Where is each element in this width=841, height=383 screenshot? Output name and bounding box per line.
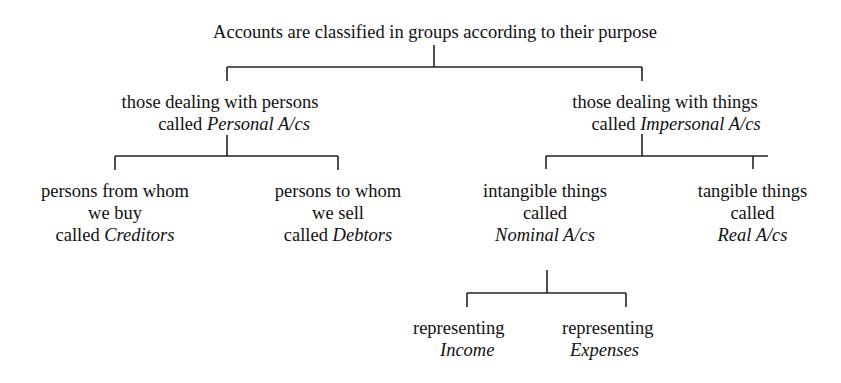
debtors-line3: called Debtors: [238, 224, 438, 246]
impersonal-line1: those dealing with things: [505, 91, 825, 113]
impersonal-accounts-node: those dealing with things called Imperso…: [505, 91, 825, 135]
personal-accounts-node: those dealing with persons called Person…: [60, 91, 380, 135]
root-label: Accounts are classified in groups accord…: [213, 22, 657, 42]
creditors-node: persons from whom we buy called Creditor…: [0, 180, 230, 246]
nominal-accounts-node: intangible things called Nominal A/cs: [450, 180, 640, 246]
impersonal-line2: called Impersonal A/cs: [505, 113, 825, 135]
impersonal-accounts-term: Impersonal A/cs: [640, 114, 760, 134]
debtors-line2: we sell: [238, 202, 438, 224]
real-accounts-node: tangible things called Real A/cs: [660, 180, 841, 246]
debtors-line1: persons to whom: [238, 180, 438, 202]
expenses-line1: representing: [562, 317, 653, 339]
creditors-line1: persons from whom: [0, 180, 230, 202]
creditors-line3: called Creditors: [0, 224, 230, 246]
real-accounts-term: Real A/cs: [660, 224, 841, 246]
creditors-term: Creditors: [104, 225, 174, 245]
nominal-line1: intangible things: [450, 180, 640, 202]
nominal-line2: called: [450, 202, 640, 224]
nominal-accounts-term: Nominal A/cs: [450, 224, 640, 246]
root-node: Accounts are classified in groups accord…: [120, 21, 750, 43]
income-node: representing Income: [413, 317, 504, 361]
income-term: Income: [413, 339, 504, 361]
personal-accounts-term: Personal A/cs: [207, 114, 310, 134]
personal-line1: those dealing with persons: [60, 91, 380, 113]
debtors-node: persons to whom we sell called Debtors: [238, 180, 438, 246]
real-line2: called: [660, 202, 841, 224]
debtors-term: Debtors: [333, 225, 393, 245]
expenses-node: representing Expenses: [562, 317, 653, 361]
personal-line2: called Personal A/cs: [60, 113, 380, 135]
real-line1: tangible things: [660, 180, 841, 202]
expenses-term: Expenses: [562, 339, 653, 361]
income-line1: representing: [413, 317, 504, 339]
creditors-line2: we buy: [0, 202, 230, 224]
